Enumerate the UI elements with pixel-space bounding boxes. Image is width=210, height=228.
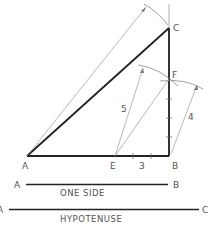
right-triangle-construction-diagram: C F A E B 5 4 3 A B ONE SIDE A C HYPOTEN…: [0, 0, 210, 228]
arrowhead-icon: [140, 68, 144, 73]
dimension-line-5: [115, 68, 143, 156]
arrowhead-icon: [141, 7, 146, 12]
label-point-f: F: [172, 70, 177, 80]
legend-one-side-caption: ONE SIDE: [60, 188, 105, 198]
legend-hypotenuse-end: C: [202, 205, 208, 215]
label-point-c: C: [173, 23, 179, 33]
legend-hypotenuse-caption: HYPOTENUSE: [60, 214, 122, 224]
label-point-e: E: [110, 161, 116, 171]
legend-hypotenuse-start: A: [0, 205, 4, 215]
legend-one-side-end: B: [173, 180, 179, 190]
label-point-b: B: [172, 161, 178, 171]
hypotenuse-dimension-line: [27, 7, 146, 156]
legend-one-side-start: A: [14, 180, 21, 190]
label-point-a: A: [22, 161, 29, 171]
label-dimension-3: 3: [139, 161, 145, 171]
label-dimension-5: 5: [121, 104, 127, 114]
hypotenuse-ac: [27, 28, 169, 156]
label-dimension-4: 4: [188, 112, 194, 122]
hypotenuse-arc: [144, 4, 168, 25]
line-ef: [115, 79, 169, 156]
